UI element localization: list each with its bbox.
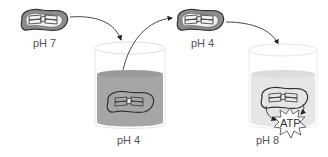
beaker-ph4: [95, 42, 165, 129]
diagram-canvas: pH 7 pH 4 pH 4 ATP pH 8: [0, 0, 328, 157]
arrow-transfer-1: [70, 17, 121, 40]
stage1-ph-label: pH 7: [33, 37, 56, 49]
stage3-ph-label: pH 4: [191, 37, 214, 49]
chloroplast-ph4: [177, 9, 223, 30]
arrow-transfer-3: [226, 22, 278, 44]
stage4-ph-label: pH 8: [256, 134, 279, 146]
chloroplast-ph7: [21, 9, 67, 30]
atp-label: ATP: [280, 117, 301, 129]
stage2-ph-label: pH 4: [117, 134, 140, 146]
